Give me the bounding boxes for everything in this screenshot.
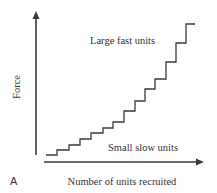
y-axis [33, 11, 40, 155]
motor-unit-recruitment-diagram: Force Number of units recruited Large fa… [0, 0, 217, 193]
x-axis [44, 159, 204, 166]
y-axis-label: Force [11, 75, 22, 99]
annotation-small-slow-units: Small slow units [108, 142, 178, 153]
x-axis-label: Number of units recruited [68, 176, 178, 187]
panel-label: A [10, 175, 18, 187]
x-axis-arrow-icon [196, 159, 204, 166]
annotation-large-fast-units: Large fast units [90, 35, 155, 46]
y-axis-arrow-icon [33, 11, 40, 19]
